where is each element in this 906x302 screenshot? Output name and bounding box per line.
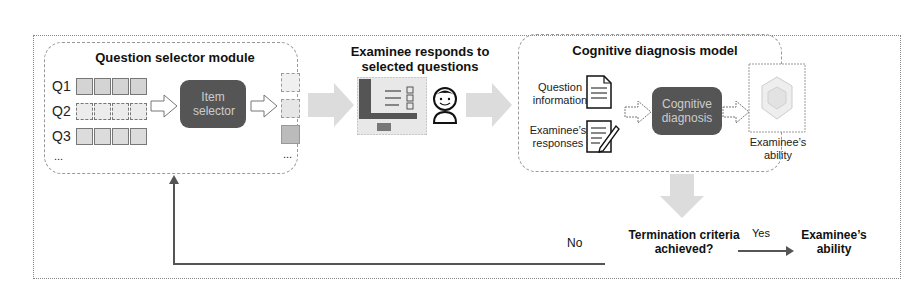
flow-arrow-icon — [308, 83, 354, 127]
item-selector-label: Item selector — [193, 90, 233, 118]
arrow-right-icon — [624, 100, 652, 124]
question-label-q1: Q1 — [52, 78, 71, 94]
arrow-right-icon — [722, 100, 750, 124]
ability-radar-icon — [748, 63, 806, 133]
document-icon — [586, 75, 612, 109]
yes-arrow-line — [738, 250, 788, 252]
flow-arrow-icon — [466, 83, 512, 127]
arrowhead-up-icon — [169, 175, 179, 184]
cognitive-diagnosis-label: Cognitive diagnosis — [657, 97, 717, 125]
question-row-q2 — [76, 103, 148, 120]
arrow-right-icon — [250, 94, 278, 118]
no-label: No — [567, 236, 582, 250]
yes-label: Yes — [752, 227, 770, 239]
edit-form-icon — [586, 118, 620, 154]
answer-sheet-icon — [357, 77, 427, 135]
question-label-q2: Q2 — [52, 103, 71, 119]
selected-question-slot — [281, 125, 300, 144]
question-row-q3 — [76, 128, 148, 145]
cognitive-model-title: Cognitive diagnosis model — [540, 43, 770, 58]
selected-ellipsis: ... — [283, 148, 292, 161]
arrowhead-icon — [786, 246, 794, 256]
examinee-ability-label: Examinee’s ability — [740, 136, 816, 162]
no-loop-horizontal-line — [173, 263, 605, 265]
examinee-avatar-icon — [430, 86, 460, 124]
examinee-responses-label: Examinee’s responses — [522, 124, 594, 150]
final-ability-label: Examinee’s ability — [794, 228, 874, 256]
examinee-step-title: Examinee responds to selected questions — [330, 44, 510, 74]
question-ellipsis: ... — [54, 150, 63, 162]
selected-question-slot — [281, 99, 300, 118]
question-row-q1 — [76, 78, 148, 95]
question-selector-title: Question selector module — [60, 50, 290, 65]
question-label-q3: Q3 — [52, 128, 71, 144]
termination-question: Termination criteria achieved? — [618, 228, 750, 256]
selected-question-slot — [281, 73, 300, 92]
no-loop-vertical-line — [173, 181, 175, 265]
down-arrow-icon — [660, 174, 704, 218]
question-information-label: Question information — [525, 81, 595, 107]
arrow-right-icon — [150, 94, 178, 118]
cognitive-diagnosis-box: Cognitive diagnosis — [652, 87, 722, 135]
item-selector-box: Item selector — [180, 80, 246, 128]
